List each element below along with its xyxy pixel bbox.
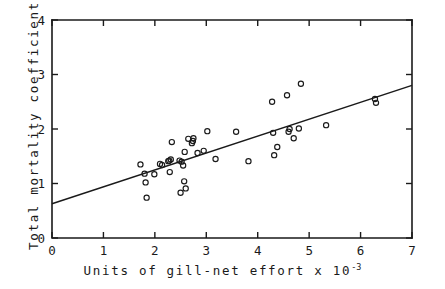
data-point [182,179,187,184]
data-point [195,150,200,155]
data-point [284,93,289,98]
x-tick-label: 2 [151,243,159,258]
data-point [246,159,251,164]
scatter-plot-figure: 0123456701234 Units of gill-net effort x… [0,0,445,289]
data-point [144,195,149,200]
data-point [138,162,143,167]
data-point [298,81,303,86]
data-point [201,148,206,153]
data-point [167,169,172,174]
x-axis-exponent: -3 [351,262,361,272]
data-point [291,136,296,141]
data-point [270,99,275,104]
regression-line [52,85,412,203]
x-tick-label: 4 [254,243,262,258]
x-tick-label: 0 [48,243,56,258]
data-point [213,156,218,161]
x-tick-label: 6 [357,243,365,258]
data-point [324,123,329,128]
data-point [275,144,280,149]
x-tick-label: 1 [100,243,108,258]
data-point [152,172,157,177]
x-tick-label: 5 [305,243,313,258]
y-axis-title: Total mortality coefficient [26,1,41,251]
data-point [143,180,148,185]
data-point [234,129,239,134]
data-point [178,190,183,195]
x-axis-title: Units of gill-net effort x 10-3 [0,262,445,278]
data-point [169,139,174,144]
data-point [205,129,210,134]
y-axis-title-text: Total mortality coefficient [26,1,41,250]
x-tick-label: 3 [203,243,211,258]
axis-frame [52,20,412,238]
data-point [183,186,188,191]
plot-canvas: 0123456701234 [0,0,445,289]
x-tick-label: 7 [408,243,416,258]
x-axis-title-text: Units of gill-net effort x 10 [84,263,352,278]
data-point [272,153,277,158]
data-point [182,149,187,154]
data-point [296,126,301,131]
